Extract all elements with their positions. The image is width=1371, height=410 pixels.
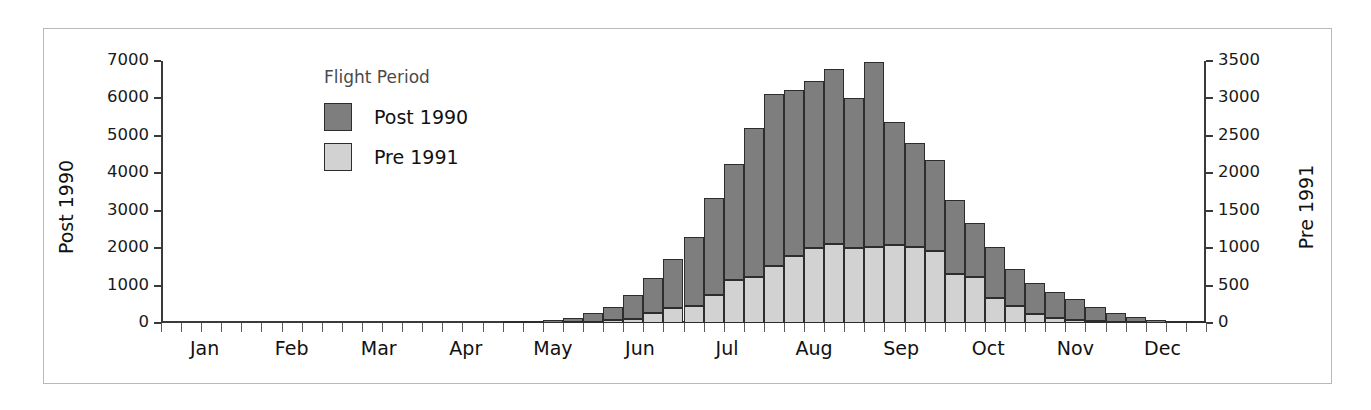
bar-segment-pre-1991 [1045,318,1065,323]
bar-segment-post-1990 [563,318,583,322]
x-tick [322,323,323,332]
bar [583,313,603,323]
x-tick [1045,323,1046,332]
bar-segment-post-1990 [1186,321,1206,323]
bar [804,81,824,323]
x-axis-month-label: Oct [972,337,1005,359]
bar [684,237,704,323]
y-tick-label-left: 2000 [79,239,149,256]
bar-segment-post-1990 [1005,269,1025,306]
bar-segment-post-1990 [1166,321,1186,323]
bar-segment-post-1990 [704,198,724,295]
x-tick [925,323,926,332]
x-tick [985,323,986,332]
bar-segment-post-1990 [784,90,804,255]
x-tick [181,323,182,332]
y-tick-left [154,60,161,62]
y-tick-right [1206,135,1213,137]
x-tick [905,323,906,332]
bar-segment-post-1990 [804,81,824,248]
y-tick-label-left: 6000 [79,89,149,106]
x-axis-month-label: Jun [625,337,655,359]
y-tick-label-right: 3500 [1218,52,1260,69]
y-tick-left [154,285,161,287]
bar-segment-post-1990 [724,164,744,280]
x-tick [402,323,403,332]
x-tick [302,323,303,332]
bar [784,90,804,323]
bar-segment-post-1990 [523,321,543,323]
x-axis-month-label: Jul [716,337,739,359]
y-tick-label-left: 0 [79,314,149,331]
x-tick [784,323,785,332]
bar-segment-pre-1991 [985,298,1005,323]
bar-segment-pre-1991 [1025,314,1045,323]
bar [1005,269,1025,323]
bar-segment-pre-1991 [784,256,804,323]
y-tick-left [154,210,161,212]
y-tick-right [1206,60,1213,62]
bar [1166,321,1186,323]
y-tick-label-right: 0 [1218,314,1229,331]
bar-segment-post-1990 [764,94,784,266]
bar [925,160,945,323]
x-tick [744,323,745,332]
bar-segment-pre-1991 [684,306,704,323]
bar-segment-post-1990 [925,160,945,251]
x-tick [282,323,283,332]
x-axis-month-label: Jan [190,337,219,359]
x-tick [1005,323,1006,332]
x-tick [884,323,885,332]
x-tick [764,323,765,332]
bar [844,98,864,323]
bar-segment-pre-1991 [643,313,663,323]
y-tick-label-right: 2500 [1218,127,1260,144]
bar-segment-pre-1991 [925,251,945,323]
x-tick [221,323,222,332]
bar-segment-post-1990 [583,313,603,321]
x-tick [1206,323,1207,332]
bar-segment-pre-1991 [1085,321,1105,323]
bar [1085,307,1105,323]
x-axis-month-label: Apr [449,337,482,359]
bar-segment-pre-1991 [1005,306,1025,323]
y-tick-label-left: 4000 [79,164,149,181]
bar-segment-pre-1991 [864,247,884,323]
y-tick-left [154,172,161,174]
y-tick-label-left: 1000 [79,277,149,294]
y-tick-left [154,322,161,324]
bar [1146,320,1166,323]
bar [563,318,583,323]
bar [764,94,784,323]
bar-segment-post-1990 [543,320,563,322]
x-tick [261,323,262,332]
y-tick-left [154,247,161,249]
bar [643,278,663,323]
x-tick [161,323,162,332]
bar [1106,313,1126,323]
bar-segment-pre-1991 [824,244,844,323]
bar [543,320,563,323]
bar-segment-post-1990 [884,122,904,246]
x-tick [201,323,202,332]
bar-segment-pre-1991 [965,277,985,323]
bar [523,322,543,323]
chart-figure: Post 1990 Pre 1991 Flight Period Post 19… [43,28,1332,384]
x-axis-month-label: May [533,337,572,359]
x-tick [663,323,664,332]
bar-segment-post-1990 [663,259,683,308]
x-tick [945,323,946,332]
bar-segment-pre-1991 [804,248,824,323]
bar-segment-post-1990 [864,62,884,247]
bar-segment-post-1990 [985,247,1005,297]
y-tick-left [154,97,161,99]
bar [824,69,844,323]
x-axis-month-label: Dec [1144,337,1181,359]
bar [623,295,643,323]
x-tick [623,323,624,332]
bar [1045,292,1065,323]
bar-segment-post-1990 [965,223,985,277]
bar [1126,317,1146,323]
bar-segment-post-1990 [503,321,523,323]
x-tick [1146,323,1147,332]
